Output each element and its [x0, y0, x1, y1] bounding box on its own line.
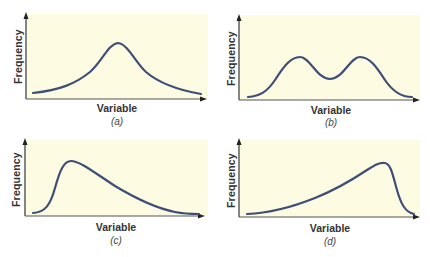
x-axis-label: Variable: [87, 102, 147, 114]
panel-caption: (a): [102, 116, 132, 127]
panel-caption: (c): [101, 235, 131, 246]
x-axis-label: Variable: [86, 221, 146, 233]
chart-panel-d: Frequency Variable (d): [215, 128, 430, 256]
y-axis-label: Frequency: [225, 153, 237, 208]
panel-caption: (d): [315, 236, 345, 247]
panel-caption: (b): [316, 117, 346, 128]
y-axis-label: Frequency: [225, 31, 237, 86]
chart-panel-c: Frequency Variable (c): [0, 128, 215, 256]
y-axis-label: Frequency: [12, 29, 24, 84]
x-axis-label: Variable: [300, 222, 360, 234]
y-axis-label: Frequency: [10, 152, 22, 207]
chart-panel-b: Frequency Variable (b): [215, 0, 430, 128]
chart-panel-a: Frequency Variable (a): [0, 0, 215, 128]
x-axis-label: Variable: [301, 104, 361, 116]
